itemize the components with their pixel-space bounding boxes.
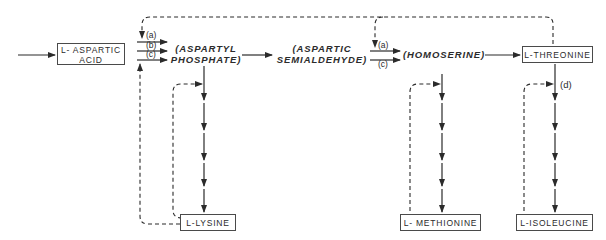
node-aspartic-semialdehyde-line1: (ASPARTIC	[276, 43, 368, 54]
node-l-aspartic-acid-line1: L- ASPARTIC	[58, 45, 124, 55]
node-l-aspartic-acid: L- ASPARTIC ACID	[57, 43, 125, 65]
feedback-threonine-to-aspartokinase-a	[142, 17, 553, 44]
node-aspartyl-phosphate-line2: PHOSPHATE)	[170, 54, 242, 65]
node-homoserine: (HOMOSERINE)	[403, 49, 483, 60]
node-l-methionine: L- METHIONINE	[400, 214, 481, 231]
node-aspartyl-phosphate-line1: (ASPARTYL	[170, 43, 242, 54]
enzyme-label-asp-a: (a)	[146, 31, 156, 40]
enzyme-label-hom-c: (c)	[378, 60, 388, 69]
node-l-aspartic-acid-line2: ACID	[58, 55, 124, 65]
feedback-methionine-to-first-step	[410, 84, 440, 211]
node-l-isoleucine-label: L-ISOLEUCINE	[520, 218, 589, 228]
enzyme-label-hom-a: (a)	[378, 41, 388, 50]
node-l-methionine-label: L- METHIONINE	[404, 218, 478, 228]
enzyme-label-ile-d: (d)	[560, 80, 572, 89]
feedback-lysine-to-first-step	[173, 84, 202, 218]
pathway-diagram	[0, 0, 606, 240]
feedback-isoleucine-to-step-d	[524, 84, 553, 211]
node-l-lysine-label: L-LYSINE	[186, 218, 230, 228]
enzyme-label-asp-c: (c)	[146, 50, 156, 59]
node-aspartic-semialdehyde-line2: SEMIALDEHYDE)	[276, 54, 368, 65]
node-aspartyl-phosphate: (ASPARTYL PHOSPHATE)	[170, 43, 242, 65]
node-l-isoleucine: L-ISOLEUCINE	[516, 214, 593, 231]
node-aspartic-semialdehyde: (ASPARTIC SEMIALDEHYDE)	[276, 43, 368, 65]
node-l-lysine: L-LYSINE	[180, 214, 236, 231]
node-l-threonine-label: L-THREONINE	[524, 50, 590, 60]
node-homoserine-label: (HOMOSERINE)	[403, 49, 485, 60]
node-l-threonine: L-THREONINE	[522, 46, 593, 63]
